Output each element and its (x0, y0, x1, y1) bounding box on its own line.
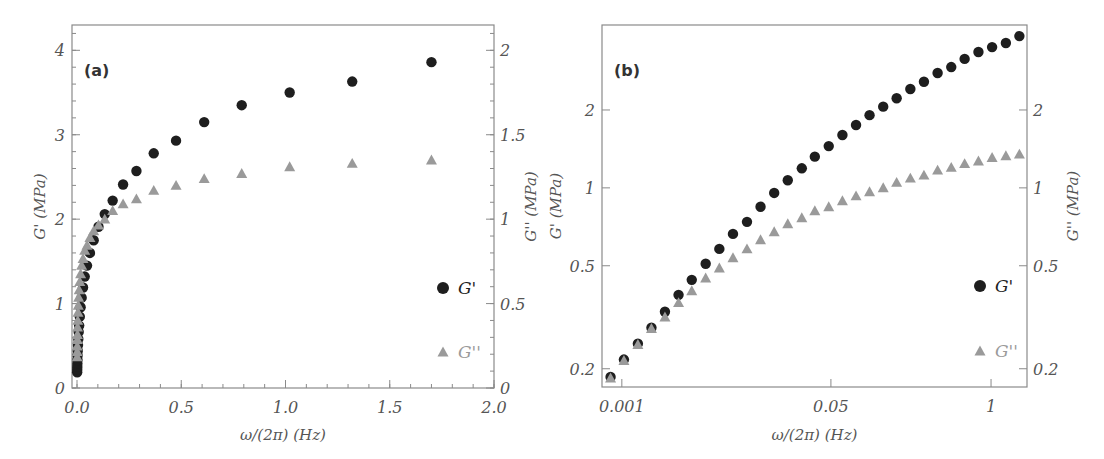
g-double-prime-point (769, 226, 780, 236)
figure: 0.00.51.01.52.00123400.511.52ω/(2π) (Hz)… (0, 0, 1104, 459)
g-double-prime-point (700, 273, 711, 283)
g-prime-point (824, 141, 834, 151)
g-prime-point (687, 275, 697, 285)
g-double-prime-point (714, 263, 725, 273)
x-tick-label: 1 (986, 397, 996, 416)
x-tick-label: 0.001 (599, 397, 645, 416)
x-tick-label: 2.0 (480, 398, 506, 417)
legend-circle-icon (974, 280, 986, 292)
g-double-prime-point (987, 152, 998, 162)
legend: G'G'' (437, 278, 481, 362)
x-tick-label: 0.05 (813, 397, 849, 416)
x-tick-label: 1.0 (273, 398, 298, 417)
g-prime-point (837, 130, 847, 140)
g-double-prime-point (107, 205, 118, 215)
g-prime-point (426, 57, 436, 67)
x-tick-label: 0.0 (64, 398, 89, 417)
g-double-prime-point (741, 243, 752, 253)
y-right-tick-label: 0 (500, 379, 510, 398)
g-prime-point (810, 151, 820, 161)
g-prime-point (714, 244, 724, 254)
panel-b: 0.0010.0510.20.5120.20.512ω/(2π) (Hz)G' … (547, 25, 1082, 444)
legend-label: G'' (995, 341, 1018, 361)
g-double-prime-point (199, 173, 210, 183)
g-double-prime-point (905, 173, 916, 183)
x-tick-label: 0.5 (169, 398, 194, 417)
g-double-prime-point (426, 155, 437, 165)
plot-frame (72, 25, 494, 388)
g-double-prime-point (837, 195, 848, 205)
legend-triangle-icon (975, 346, 986, 356)
g-prime-point (946, 62, 956, 72)
g-prime-point (987, 42, 997, 52)
g-double-prime-point (809, 205, 820, 215)
g-double-prime-point (932, 165, 943, 175)
g-prime-point (919, 77, 929, 87)
panel-a: 0.00.51.01.52.00123400.511.52ω/(2π) (Hz)… (31, 25, 540, 444)
g-double-prime-point (973, 156, 984, 166)
g-double-prime-point (686, 285, 697, 295)
g-prime-point (237, 100, 247, 110)
y-tick-label: 0 (55, 379, 65, 398)
y-tick-label: 0.5 (570, 257, 595, 276)
g-double-prime-point (284, 161, 295, 171)
g-double-prime-point (891, 177, 902, 187)
g-prime-point (1014, 31, 1024, 41)
legend-triangle-icon (438, 347, 449, 357)
y-axis-label: G' (MPa) (547, 173, 565, 239)
series-g-prime (72, 57, 437, 378)
g-prime-point (199, 117, 209, 127)
g-prime-point (864, 110, 874, 120)
x-tick-label: 1.5 (377, 398, 402, 417)
g-prime-point (742, 217, 752, 227)
g-double-prime-point (851, 190, 862, 200)
g-double-prime-point (1014, 149, 1025, 159)
g-double-prime-point (823, 201, 834, 211)
g-prime-point (783, 175, 793, 185)
g-double-prime-point (131, 193, 142, 203)
y-tick-label: 1 (585, 179, 595, 198)
legend-label: G' (995, 276, 1013, 296)
g-prime-point (171, 135, 181, 145)
y-tick-label: 4 (54, 41, 65, 60)
g-double-prime-point (236, 168, 247, 178)
g-prime-point (347, 76, 357, 86)
y-right-tick-label: 2 (1032, 101, 1043, 120)
y-right-axis-label: G'' (MPa) (1064, 171, 1082, 242)
g-prime-point (878, 101, 888, 111)
y-right-tick-label: 0.5 (1033, 257, 1058, 276)
g-prime-point (769, 188, 779, 198)
g-prime-point (131, 166, 141, 176)
g-double-prime-point (1000, 150, 1011, 160)
g-double-prime-point (959, 158, 970, 168)
y-tick-label: 2 (584, 101, 595, 120)
g-double-prime-point (864, 186, 875, 196)
g-prime-point (932, 68, 942, 78)
y-tick-label: 3 (55, 126, 65, 145)
g-prime-point (973, 47, 983, 57)
y-right-tick-label: 0.5 (500, 295, 525, 314)
g-double-prime-point (878, 182, 889, 192)
legend-label: G'' (458, 342, 481, 362)
y-tick-label: 1 (55, 295, 65, 314)
y-right-tick-label: 0.2 (1033, 360, 1058, 379)
g-double-prime-point (727, 252, 738, 262)
g-double-prime-point (148, 185, 159, 195)
g-double-prime-point (918, 170, 929, 180)
legend-label: G' (458, 278, 476, 298)
y-right-tick-label: 1 (1033, 179, 1043, 198)
y-right-tick-label: 1.5 (500, 126, 525, 145)
x-axis-label: ω/(2π) (Hz) (240, 426, 326, 444)
y-right-axis-label: G'' (MPa) (522, 171, 540, 242)
g-prime-point (851, 120, 861, 130)
g-double-prime-point (946, 162, 957, 172)
g-prime-point (959, 54, 969, 64)
y-tick-label: 2 (54, 210, 65, 229)
g-prime-point (797, 163, 807, 173)
g-prime-point (284, 87, 294, 97)
g-double-prime-point (796, 212, 807, 222)
g-double-prime-point (118, 198, 129, 208)
y-right-tick-label: 2 (499, 41, 510, 60)
g-double-prime-point (347, 158, 358, 168)
g-prime-point (755, 202, 765, 212)
